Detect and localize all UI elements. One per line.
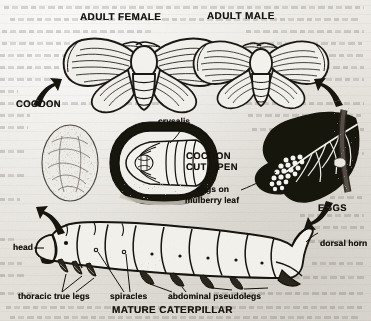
label-adult-female: ADULT FEMALE bbox=[80, 12, 161, 23]
label-thoracic-true-legs: thoracic true legs bbox=[18, 292, 90, 302]
label-abdominal-pseudolegs: abdominal pseudolegs bbox=[168, 292, 261, 302]
label-eggs-on-line1: eggs on bbox=[196, 185, 229, 195]
label-dorsal-horn: dorsal horn bbox=[320, 239, 367, 249]
label-adult-male: ADULT MALE bbox=[207, 11, 275, 22]
label-mature-caterpillar: MATURE CATERPILLAR bbox=[112, 305, 233, 316]
label-spiracles: spiracles bbox=[110, 292, 147, 302]
label-eggs-on-line2: mulberry leaf bbox=[185, 196, 239, 206]
label-crysalis: crysalis bbox=[158, 117, 190, 127]
label-cocoon: COCOON bbox=[16, 100, 61, 111]
silkworm-life-cycle-figure: ADULT FEMALE ADULT MALE COCOON crysalis … bbox=[0, 0, 371, 321]
label-cocoon-cut-open-line2: CUT OPEN bbox=[186, 163, 238, 174]
label-head: head bbox=[13, 243, 33, 253]
label-eggs: EGGS bbox=[318, 204, 347, 215]
